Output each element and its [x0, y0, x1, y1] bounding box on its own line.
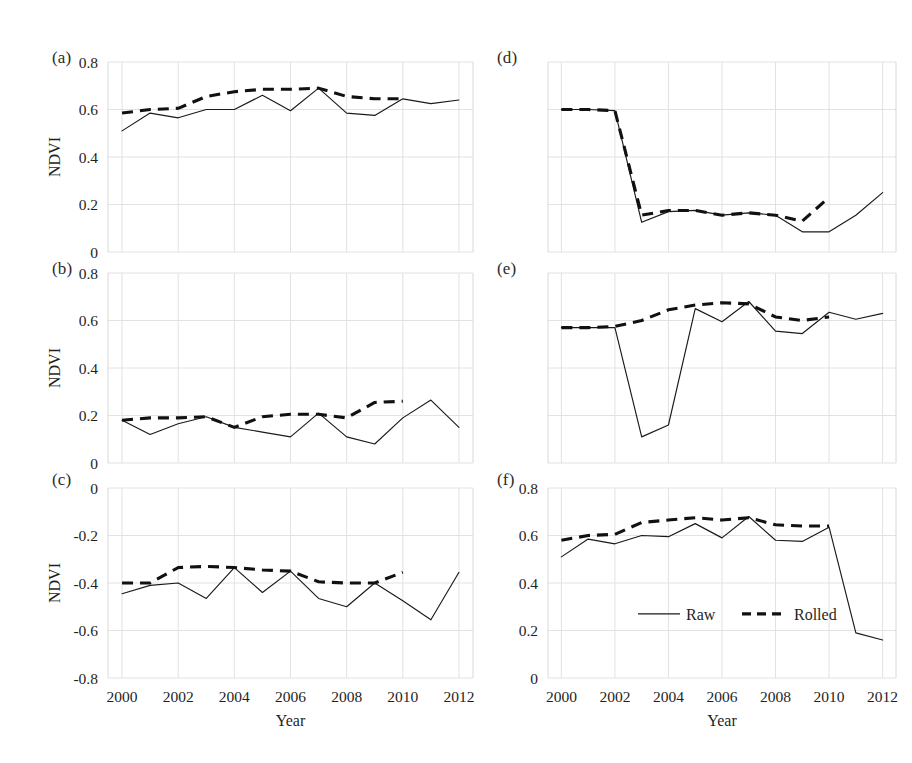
x-tick-label: 2006 [707, 688, 738, 705]
x-tick-label: 2008 [760, 688, 791, 705]
x-tick-label: 2000 [546, 688, 577, 705]
y-tick-label: 0.2 [519, 622, 538, 639]
plot-area-f: 00.20.40.60.8200020022004200620082010201… [0, 0, 912, 763]
y-tick-label: 0.6 [519, 527, 539, 544]
legend-rolled-label: Rolled [794, 606, 837, 623]
x-tick-label: 2012 [867, 688, 898, 705]
y-tick-label: 0.8 [519, 480, 539, 497]
y-tick-label: 0.4 [519, 575, 539, 592]
legend-raw-label: Raw [686, 606, 716, 623]
y-tick-label: 0 [530, 670, 538, 687]
x-tick-label: 2010 [814, 688, 845, 705]
series-rolled-line [561, 518, 829, 541]
ndvi-time-series-figure: (a)00.20.40.60.8NDVI(b)00.20.40.60.8NDVI… [0, 0, 912, 763]
x-axis-title: Year [707, 712, 737, 729]
x-tick-label: 2002 [599, 688, 630, 705]
x-tick-label: 2004 [653, 688, 684, 705]
